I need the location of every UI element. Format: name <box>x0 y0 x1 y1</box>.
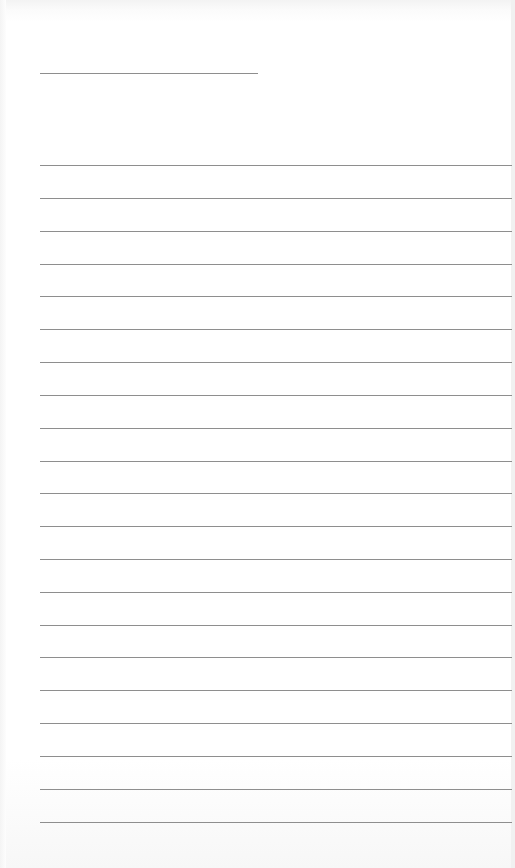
ruled-line <box>40 526 512 527</box>
ruled-line <box>40 822 512 823</box>
ruled-line <box>40 657 512 658</box>
ruled-line <box>40 264 512 265</box>
ruled-line <box>40 756 512 757</box>
ruled-line <box>40 493 512 494</box>
ruled-line <box>40 296 512 297</box>
page-left-edge <box>0 0 6 868</box>
ruled-line <box>40 165 512 166</box>
title-line <box>40 73 258 74</box>
ruled-line <box>40 428 512 429</box>
ruled-line <box>40 395 512 396</box>
ruled-line <box>40 690 512 691</box>
ruled-line <box>40 461 512 462</box>
ruled-line <box>40 198 512 199</box>
ruled-line <box>40 559 512 560</box>
ruled-line <box>40 231 512 232</box>
ruled-line <box>40 592 512 593</box>
ruled-line <box>40 362 512 363</box>
lined-paper-page <box>0 0 515 868</box>
ruled-line <box>40 625 512 626</box>
ruled-line <box>40 723 512 724</box>
ruled-line <box>40 789 512 790</box>
ruled-line <box>40 329 512 330</box>
page-right-edge <box>511 0 515 868</box>
